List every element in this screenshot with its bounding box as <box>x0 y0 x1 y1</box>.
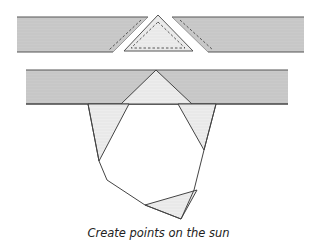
top-row <box>17 15 304 52</box>
top-right-strip <box>172 17 304 52</box>
sun-construction-diagram <box>0 0 317 249</box>
sun-shape <box>88 104 216 219</box>
middle-row <box>26 70 288 104</box>
diagram-caption: Create points on the sun <box>0 226 317 240</box>
sun-point-left <box>88 104 129 161</box>
